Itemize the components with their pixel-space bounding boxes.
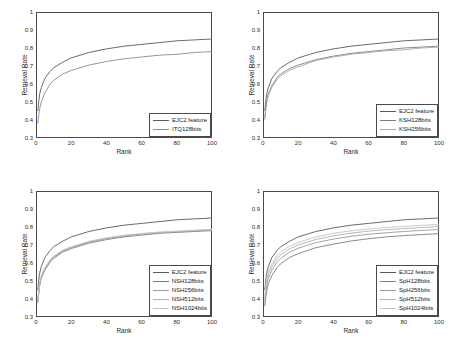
panel-ksh: Retrieval Rate Rank 0.30.40.50.60.70.80.… <box>227 0 454 179</box>
y-axis-label-sph: Retrieval Rate <box>248 233 255 274</box>
legend-item: SpH512bits <box>380 295 434 304</box>
legend-item: KSH128bits <box>380 116 434 125</box>
y-tick-label: 0.7 <box>25 242 33 248</box>
legend-item: ITQ128bits <box>153 125 207 134</box>
y-tick-label: 0.7 <box>25 63 33 69</box>
legend-swatch-icon <box>380 299 396 300</box>
x-tick-label: 60 <box>365 140 372 146</box>
legend-item: EJC2 feature <box>153 116 207 125</box>
x-tick-label: 0 <box>34 319 37 325</box>
legend-swatch-icon <box>153 299 169 300</box>
x-axis-label-nsh: Rank <box>36 327 212 334</box>
legend-item: SpH1024bits <box>380 304 434 313</box>
legend-swatch-icon <box>380 111 396 112</box>
legend-label: EJC2 feature <box>172 116 207 125</box>
legend-item: NSH256bits <box>153 286 207 295</box>
y-tick-label: 0.7 <box>252 63 260 69</box>
y-tick-label: 0.3 <box>252 135 260 141</box>
legend-swatch-icon <box>153 281 169 282</box>
y-tick-label: 0.8 <box>252 224 260 230</box>
legend-swatch-icon <box>153 129 169 130</box>
y-tick-label: 1 <box>30 188 33 194</box>
x-tick-label: 100 <box>207 319 217 325</box>
legend-item: NSH512bits <box>153 295 207 304</box>
legend-item: EJC2 feature <box>380 107 434 116</box>
x-tick-label: 100 <box>434 319 444 325</box>
x-tick-label: 20 <box>295 319 302 325</box>
legend-label: NSH256bits <box>172 286 204 295</box>
y-tick-label: 0.5 <box>252 278 260 284</box>
y-tick-label: 0.6 <box>252 260 260 266</box>
legend-label: EJC2 feature <box>399 107 434 116</box>
y-tick-label: 1 <box>257 188 260 194</box>
y-tick-label: 0.3 <box>25 135 33 141</box>
y-tick-label: 0.5 <box>25 99 33 105</box>
legend-swatch-icon <box>380 129 396 130</box>
legend-swatch-icon <box>153 290 169 291</box>
legend-item: EJC2 feature <box>153 268 207 277</box>
legend-label: SpH512bits <box>399 295 430 304</box>
legend-swatch-icon <box>380 120 396 121</box>
y-tick-label: 0.9 <box>25 206 33 212</box>
legend-label: EJC2 feature <box>172 268 207 277</box>
x-tick-label: 40 <box>330 319 337 325</box>
y-tick-label: 0.6 <box>25 81 33 87</box>
y-axis-label-ksh: Retrieval Rate <box>248 54 255 95</box>
legend-item: SpH256bits <box>380 286 434 295</box>
x-tick-label: 60 <box>138 140 145 146</box>
y-tick-label: 0.4 <box>25 296 33 302</box>
plot-area-nsh: Retrieval Rate Rank 0.30.40.50.60.70.80.… <box>36 191 212 317</box>
y-tick-label: 0.4 <box>252 117 260 123</box>
legend-label: SpH256bits <box>399 286 430 295</box>
legend-label: NSH512bits <box>172 295 204 304</box>
y-tick-label: 0.9 <box>252 206 260 212</box>
y-tick-label: 0.4 <box>25 117 33 123</box>
panel-nsh: Retrieval Rate Rank 0.30.40.50.60.70.80.… <box>0 179 227 358</box>
x-tick-label: 40 <box>330 140 337 146</box>
legend-itq: EJC2 featureITQ128bits <box>149 113 211 137</box>
x-axis-label-ksh: Rank <box>263 148 439 155</box>
y-tick-label: 0.3 <box>25 314 33 320</box>
y-tick-label: 0.9 <box>25 27 33 33</box>
x-tick-label: 80 <box>173 140 180 146</box>
legend-sph: EJC2 featureSpH128bitsSpH256bitsSpH512bi… <box>376 265 438 316</box>
legend-label: KSH256bits <box>399 125 431 134</box>
legend-swatch-icon <box>380 308 396 309</box>
legend-label: NSH1024bits <box>172 304 207 313</box>
legend-item: EJC2 feature <box>380 268 434 277</box>
y-tick-label: 0.8 <box>252 45 260 51</box>
legend-swatch-icon <box>380 272 396 273</box>
x-tick-label: 20 <box>295 140 302 146</box>
x-axis-label-sph: Rank <box>263 327 439 334</box>
legend-swatch-icon <box>380 281 396 282</box>
y-tick-label: 0.5 <box>252 99 260 105</box>
x-tick-label: 100 <box>434 140 444 146</box>
x-axis-label-itq: Rank <box>36 148 212 155</box>
x-tick-label: 80 <box>400 319 407 325</box>
x-tick-label: 80 <box>173 319 180 325</box>
x-tick-label: 40 <box>103 319 110 325</box>
series-line <box>38 39 212 111</box>
y-tick-label: 1 <box>257 9 260 15</box>
legend-swatch-icon <box>380 290 396 291</box>
x-tick-label: 0 <box>261 319 264 325</box>
x-tick-label: 60 <box>138 319 145 325</box>
y-tick-label: 0.6 <box>252 81 260 87</box>
x-tick-label: 0 <box>34 140 37 146</box>
figure-grid: Retrieval Rate Rank 0.30.40.50.60.70.80.… <box>0 0 454 358</box>
x-tick-label: 100 <box>207 140 217 146</box>
x-tick-label: 60 <box>365 319 372 325</box>
legend-nsh: EJC2 featureNSH128bitsNSH256bitsNSH512bi… <box>149 265 211 316</box>
legend-label: EJC2 feature <box>399 268 434 277</box>
plot-area-ksh: Retrieval Rate Rank 0.30.40.50.60.70.80.… <box>263 12 439 138</box>
x-tick-label: 40 <box>103 140 110 146</box>
y-tick-label: 0.7 <box>252 242 260 248</box>
y-tick-label: 0.8 <box>25 224 33 230</box>
legend-label: KSH128bits <box>399 116 431 125</box>
x-tick-label: 20 <box>68 319 75 325</box>
legend-swatch-icon <box>153 272 169 273</box>
y-tick-label: 0.9 <box>252 27 260 33</box>
y-axis-label-nsh: Retrieval Rate <box>21 233 28 274</box>
y-tick-label: 0.5 <box>25 278 33 284</box>
y-axis-label-itq: Retrieval Rate <box>21 54 28 95</box>
